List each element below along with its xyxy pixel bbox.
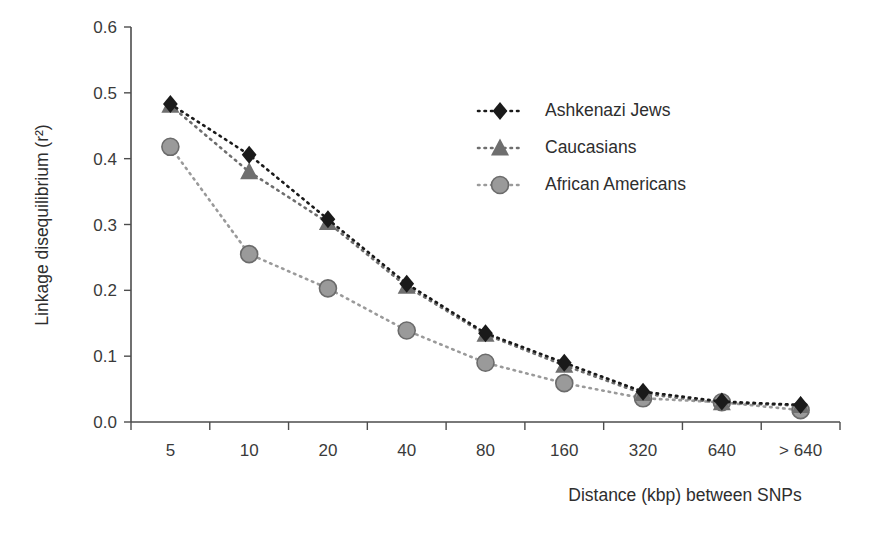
y-tick-label: 0.1: [93, 347, 117, 366]
legend-label: Caucasians: [545, 137, 637, 157]
x-tick-label: 10: [240, 441, 259, 460]
chart-legend: Ashkenazi JewsCaucasiansAfrican American…: [478, 100, 686, 194]
circle-marker: [319, 280, 336, 297]
y-tick-label: 0.5: [93, 84, 117, 103]
x-axis: 510204080160320640> 640: [131, 422, 840, 460]
y-tick-label: 0.2: [93, 281, 117, 300]
x-tick-label: 320: [629, 441, 657, 460]
legend-label: African Americans: [545, 174, 686, 194]
legend-label: Ashkenazi Jews: [545, 100, 671, 120]
x-tick-label: 640: [708, 441, 736, 460]
triangle-marker: [491, 139, 509, 156]
circle-marker: [398, 322, 415, 339]
y-axis: 0.00.10.20.30.40.50.6: [93, 18, 131, 432]
y-tick-label: 0.3: [93, 216, 117, 235]
x-tick-label: > 640: [779, 441, 822, 460]
x-tick-label: 80: [476, 441, 495, 460]
circle-marker: [492, 177, 509, 194]
data-series-group: [161, 95, 809, 419]
x-tick-label: 40: [397, 441, 416, 460]
x-tick-label: 20: [318, 441, 337, 460]
diamond-marker: [493, 102, 508, 120]
x-axis-title: Distance (kbp) between SNPs: [568, 485, 802, 505]
linkage-disequilibrium-chart: 0.00.10.20.30.40.50.6 510204080160320640…: [0, 0, 878, 534]
circle-marker: [241, 246, 258, 263]
chart-container: 0.00.10.20.30.40.50.6 510204080160320640…: [0, 0, 878, 534]
triangle-marker: [240, 162, 258, 179]
diamond-marker: [242, 146, 257, 164]
y-tick-label: 0.0: [93, 413, 117, 432]
y-axis-title: Linkage disequilibrium (r²): [32, 124, 52, 325]
x-tick-label: 5: [166, 441, 175, 460]
x-tick-label: 160: [550, 441, 578, 460]
y-tick-label: 0.6: [93, 18, 117, 37]
circle-marker: [477, 354, 494, 371]
series-african-americans: [162, 138, 809, 418]
circle-marker: [556, 375, 573, 392]
y-tick-label: 0.4: [93, 150, 117, 169]
circle-marker: [162, 138, 179, 155]
